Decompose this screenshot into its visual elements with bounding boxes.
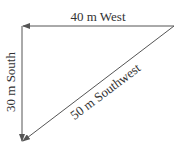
vector-triangle-diagram: 40 m West 30 m South 50 m Southwest <box>0 0 184 151</box>
west-vector-label: 40 m West <box>70 9 125 24</box>
southwest-vector-label: 50 m Southwest <box>67 60 143 123</box>
southwest-vector-arrow <box>23 26 174 141</box>
south-vector-label: 30 m South <box>3 52 18 112</box>
